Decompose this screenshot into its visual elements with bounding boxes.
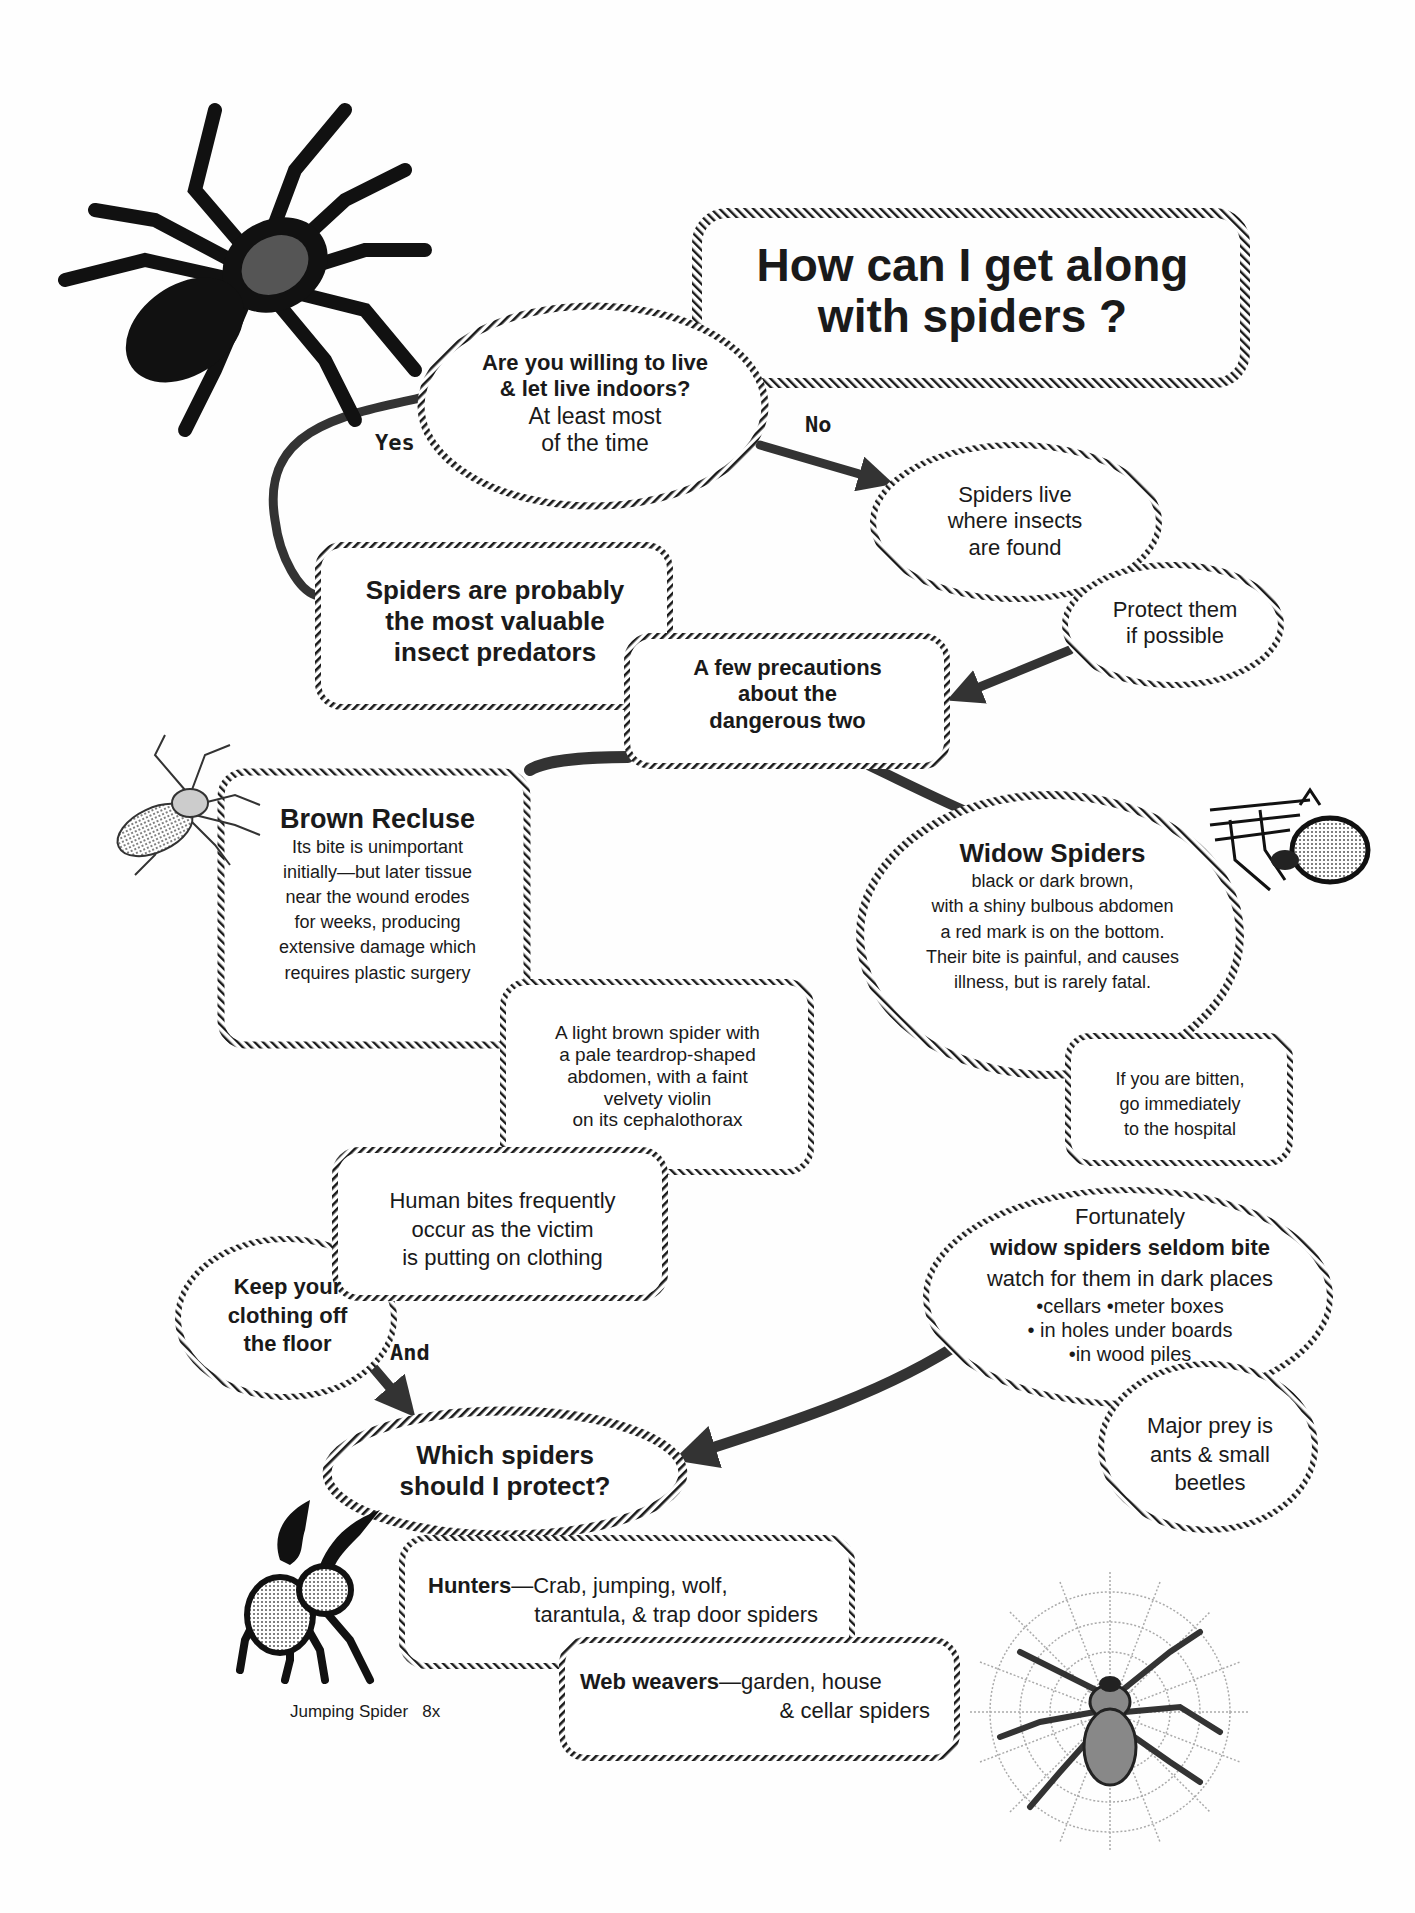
dark-place-bullet: • in holes under boards [960,1318,1300,1342]
widow-line: with a shiny bulbous abdomen [880,894,1225,919]
question-line-2: & let live indoors? [440,376,750,402]
which-line-2: should I protect? [360,1471,650,1502]
brown-recluse-line: Its bite is unimportant [235,835,520,860]
which-line-1: Which spiders [360,1440,650,1471]
to-recluse-connector [530,757,628,770]
valuable-line-2: the most valuable [325,606,665,637]
widow-line: black or dark brown, [880,869,1225,894]
brown-recluse-heading: Brown Recluse [235,805,520,835]
brown-recluse-line: for weeks, producing [235,910,520,935]
weavers-line-2: & cellar spiders [580,1697,940,1726]
question-line-1: Are you willing to live [440,350,750,376]
widow-to-which-arrow [690,1340,965,1455]
prey-node: Major prey is ants & small beetles [1130,1412,1290,1498]
bitten-line: to the hospital [1075,1117,1285,1142]
spiders-live-line-3: are found [900,535,1130,561]
brown-recluse-line: initially—but later tissue [235,860,520,885]
valuable-line-1: Spiders are probably [325,575,665,606]
protect-node: Protect them if possible [1080,597,1270,650]
precautions-line-2: about the [630,681,945,707]
brown-recluse-line: requires plastic surgery [235,961,520,986]
protect-arrow [960,650,1070,695]
widow-line: illness, but is rarely fatal. [880,970,1225,995]
recluse-description-node: A light brown spider with a pale teardro… [510,1022,805,1131]
spiders-live-line-2: where insects [900,508,1130,534]
brown-recluse-line: near the wound erodes [235,885,520,910]
precautions-line-3: dangerous two [630,708,945,734]
question-line-4: of the time [440,430,750,458]
weavers-line-1: —garden, house [719,1669,882,1694]
recluse-desc-line: velvety violin [510,1088,805,1110]
widow-heading: Widow Spiders [880,838,1225,869]
spiders-live-line-1: Spiders live [900,482,1130,508]
prey-line: ants & small [1130,1441,1290,1470]
keep-clothing-line: Keep your [200,1273,375,1302]
widow-line: a red mark is on the bottom. [880,920,1225,945]
question-node: Are you willing to live & let live indoo… [440,350,750,458]
widow-node: Widow Spiders black or dark brown, with … [880,838,1225,995]
fortunately-line-3: watch for them in dark places [960,1264,1300,1295]
brown-recluse-line: extensive damage which [235,935,520,960]
widow-line: Their bite is painful, and causes [880,945,1225,970]
human-bites-node: Human bites frequently occur as the vict… [345,1187,660,1273]
page-title: How can I get along with spiders ? [700,240,1245,341]
keep-clothing-line: clothing off [200,1302,375,1331]
recluse-desc-line: A light brown spider with [510,1022,805,1044]
jumping-spider-caption: Jumping Spider 8x [290,1702,510,1722]
weavers-node: Web weavers—garden, house & cellar spide… [580,1668,940,1725]
hunters-line-1: —Crab, jumping, wolf, [511,1573,727,1598]
fortunately-line-1: Fortunately [960,1202,1300,1233]
brown-recluse-node: Brown Recluse Its bite is unimportant in… [235,805,520,986]
question-line-3: At least most [440,403,750,431]
bitten-line: go immediately [1075,1092,1285,1117]
no-arrow [760,445,880,480]
no-label: No [805,412,832,437]
prey-line: Major prey is [1130,1412,1290,1441]
keep-clothing-line: the floor [200,1330,375,1359]
precautions-node: A few precautions about the dangerous tw… [630,655,945,734]
protect-line-2: if possible [1080,623,1270,649]
tarantula-icon [65,110,425,430]
recluse-desc-line: on its cephalothorax [510,1109,805,1131]
hunters-line-2: tarantula, & trap door spiders [420,1601,840,1630]
yes-label: Yes [375,430,415,455]
title-line-2: with spiders ? [700,291,1245,342]
jumping-spider-icon [240,1500,380,1680]
dark-place-bullet: •in wood piles [960,1342,1300,1366]
web-spider-icon [970,1572,1250,1852]
recluse-desc-line: a pale teardrop-shaped [510,1044,805,1066]
hunters-heading: Hunters [428,1573,511,1598]
precautions-line-1: A few precautions [630,655,945,681]
bitten-node: If you are bitten, go immediately to the… [1075,1067,1285,1143]
human-bites-line: is putting on clothing [345,1244,660,1273]
title-line-1: How can I get along [700,240,1245,291]
valuable-node: Spiders are probably the most valuable i… [325,575,665,669]
bitten-line: If you are bitten, [1075,1067,1285,1092]
human-bites-line: occur as the victim [345,1216,660,1245]
recluse-desc-line: abdomen, with a faint [510,1066,805,1088]
prey-line: beetles [1130,1469,1290,1498]
to-widow-connector [870,766,975,815]
fortunately-node: Fortunately widow spiders seldom bite wa… [960,1202,1300,1366]
widow-spider-icon [1210,790,1368,890]
weavers-heading: Web weavers [580,1669,719,1694]
and-label: And [390,1340,430,1365]
spiders-live-node: Spiders live where insects are found [900,482,1130,561]
hunters-node: Hunters—Crab, jumping, wolf, tarantula, … [420,1572,840,1629]
protect-line-1: Protect them [1080,597,1270,623]
valuable-line-3: insect predators [325,637,665,668]
fortunately-bold: widow spiders seldom bite [960,1233,1300,1264]
which-node: Which spiders should I protect? [360,1440,650,1502]
dark-place-bullet: •cellars •meter boxes [960,1294,1300,1318]
human-bites-line: Human bites frequently [345,1187,660,1216]
keep-clothing-node: Keep your clothing off the floor [200,1273,375,1359]
